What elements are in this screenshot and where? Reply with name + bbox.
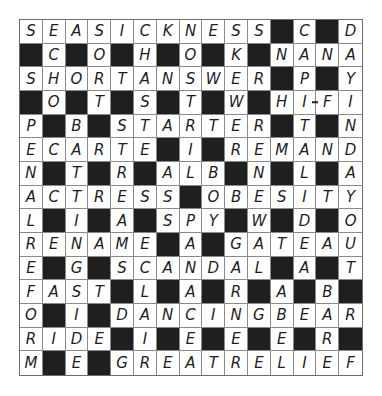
letter-cell[interactable]: A	[88, 233, 111, 257]
letter-cell[interactable]: B	[202, 162, 225, 186]
letter-cell[interactable]: A	[180, 233, 203, 257]
letter-cell[interactable]: S	[248, 20, 271, 44]
letter-cell[interactable]: E	[134, 233, 157, 257]
letter-cell[interactable]: N	[225, 304, 248, 328]
letter-cell[interactable]: T	[88, 280, 111, 304]
letter-cell[interactable]: E	[157, 351, 180, 375]
letter-cell[interactable]: S	[88, 20, 111, 44]
letter-cell[interactable]: O	[202, 186, 225, 210]
letter-cell[interactable]: R	[316, 328, 339, 352]
letter-cell[interactable]: L	[248, 257, 271, 281]
letter-cell[interactable]: A	[111, 209, 134, 233]
letter-cell[interactable]: R	[88, 138, 111, 162]
letter-cell[interactable]: C	[180, 304, 203, 328]
letter-cell[interactable]: I	[202, 304, 225, 328]
letter-cell[interactable]: O	[180, 44, 203, 68]
letter-cell[interactable]: N	[157, 67, 180, 91]
letter-cell[interactable]: S	[111, 115, 134, 139]
letter-cell[interactable]: E	[134, 138, 157, 162]
letter-cell[interactable]: I	[294, 351, 317, 375]
letter-cell[interactable]: R	[20, 328, 43, 352]
letter-cell[interactable]: N	[271, 44, 294, 68]
letter-cell[interactable]: S	[225, 20, 248, 44]
letter-cell[interactable]: A	[294, 138, 317, 162]
letter-cell[interactable]: G	[66, 257, 89, 281]
letter-cell[interactable]: L	[134, 280, 157, 304]
letter-cell[interactable]: C	[134, 20, 157, 44]
letter-cell[interactable]: O	[66, 67, 89, 91]
letter-cell[interactable]: R	[111, 162, 134, 186]
letter-cell[interactable]: A	[43, 280, 66, 304]
letter-cell[interactable]: A	[157, 257, 180, 281]
letter-cell[interactable]: R	[225, 280, 248, 304]
letter-cell[interactable]: E	[294, 304, 317, 328]
letter-cell[interactable]: R	[180, 115, 203, 139]
letter-cell[interactable]: L	[180, 162, 203, 186]
letter-cell[interactable]: A	[294, 44, 317, 68]
letter-cell[interactable]: F	[339, 351, 362, 375]
letter-cell[interactable]: Y	[202, 209, 225, 233]
letter-cell[interactable]: D	[339, 20, 362, 44]
letter-cell[interactable]: P	[20, 115, 43, 139]
letter-cell[interactable]: E	[316, 351, 339, 375]
letter-cell[interactable]: E	[111, 186, 134, 210]
letter-cell[interactable]: E	[43, 233, 66, 257]
letter-cell[interactable]: I	[339, 91, 362, 115]
letter-cell[interactable]: E	[271, 328, 294, 352]
letter-cell[interactable]: T	[111, 67, 134, 91]
letter-cell[interactable]: A	[134, 304, 157, 328]
letter-cell[interactable]: T	[134, 115, 157, 139]
letter-cell[interactable]: P	[180, 209, 203, 233]
letter-cell[interactable]: H	[271, 91, 294, 115]
letter-cell[interactable]: N	[316, 138, 339, 162]
letter-cell[interactable]: R	[20, 233, 43, 257]
letter-cell[interactable]: E	[20, 257, 43, 281]
letter-cell[interactable]: T	[202, 351, 225, 375]
letter-cell[interactable]: R	[248, 115, 271, 139]
letter-cell[interactable]: A	[316, 304, 339, 328]
letter-cell[interactable]: O	[20, 304, 43, 328]
letter-cell[interactable]: H	[134, 44, 157, 68]
letter-cell[interactable]: R	[225, 351, 248, 375]
letter-cell[interactable]: D	[294, 209, 317, 233]
letter-cell[interactable]: D	[202, 257, 225, 281]
letter-cell[interactable]: S	[157, 209, 180, 233]
letter-cell[interactable]: S	[271, 186, 294, 210]
letter-cell[interactable]: B	[271, 304, 294, 328]
letter-cell[interactable]: E	[248, 351, 271, 375]
letter-cell[interactable]: E	[88, 328, 111, 352]
letter-cell[interactable]: E	[225, 115, 248, 139]
letter-cell[interactable]: E	[202, 20, 225, 44]
letter-cell[interactable]: K	[157, 20, 180, 44]
letter-cell[interactable]: R	[88, 67, 111, 91]
letter-cell[interactable]: K	[225, 44, 248, 68]
letter-cell[interactable]: T	[271, 233, 294, 257]
letter-cell[interactable]: C	[43, 138, 66, 162]
letter-cell[interactable]: C	[294, 20, 317, 44]
letter-cell[interactable]: A	[339, 44, 362, 68]
letter-cell[interactable]: I	[66, 209, 89, 233]
letter-cell[interactable]: L	[20, 209, 43, 233]
letter-cell[interactable]: S	[180, 67, 203, 91]
letter-cell[interactable]: C	[43, 186, 66, 210]
letter-cell[interactable]: G	[111, 351, 134, 375]
letter-cell[interactable]: E	[180, 328, 203, 352]
letter-cell[interactable]: O	[339, 209, 362, 233]
letter-cell[interactable]: G	[225, 233, 248, 257]
letter-cell[interactable]: T	[294, 115, 317, 139]
letter-cell[interactable]: P	[294, 67, 317, 91]
letter-cell[interactable]: N	[248, 162, 271, 186]
letter-cell[interactable]: I	[294, 186, 317, 210]
letter-cell[interactable]: W	[225, 91, 248, 115]
letter-cell[interactable]: A	[66, 138, 89, 162]
letter-cell[interactable]: E	[66, 351, 89, 375]
letter-cell[interactable]: R	[88, 186, 111, 210]
letter-cell[interactable]: D	[66, 328, 89, 352]
letter-cell[interactable]: A	[180, 351, 203, 375]
letter-cell[interactable]: O	[88, 44, 111, 68]
letter-cell[interactable]: A	[316, 233, 339, 257]
letter-cell[interactable]: S	[157, 186, 180, 210]
letter-cell[interactable]: S	[66, 280, 89, 304]
letter-cell[interactable]: S	[20, 20, 43, 44]
letter-cell[interactable]: W	[248, 209, 271, 233]
